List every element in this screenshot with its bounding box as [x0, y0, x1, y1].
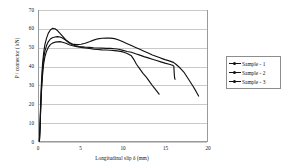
y-tick-label: 30 [20, 82, 34, 89]
legend-label: Sample - 2 [242, 70, 265, 76]
y-tick-label: 10 [20, 120, 34, 127]
chart-figure: P / connector ( kN) Longitudinal slip δ … [0, 0, 284, 168]
legend-item[interactable]: Sample - 1 [229, 59, 278, 68]
x-tick-label: 5 [74, 145, 88, 152]
gridline [39, 142, 207, 143]
legend-line-marker-icon [229, 60, 241, 68]
legend-label: Sample - 1 [242, 61, 265, 67]
legend-item[interactable]: Sample - 2 [229, 68, 278, 77]
chart-legend: Sample - 1Sample - 2Sample - 3 [226, 56, 281, 89]
plot-area [38, 10, 208, 142]
x-tick-label: 15 [159, 145, 173, 152]
x-tick-label: 20 [201, 145, 215, 152]
y-tick-label: 70 [20, 7, 34, 14]
series-lines [39, 10, 207, 141]
legend-line-marker-icon [229, 69, 241, 77]
y-tick-label: 60 [20, 25, 34, 32]
legend-item[interactable]: Sample - 3 [229, 77, 278, 86]
series-line [39, 42, 159, 141]
x-axis-title: Longitudinal slip δ (mm) [36, 155, 208, 161]
legend-line-marker-icon [229, 78, 241, 86]
legend-label: Sample - 3 [242, 79, 265, 85]
y-tick-label: 50 [20, 44, 34, 51]
y-axis-title: P / connector ( kN) [14, 8, 24, 108]
y-tick-label: 40 [20, 63, 34, 70]
series-line [39, 28, 198, 141]
x-tick-label: 0 [31, 145, 45, 152]
x-tick-label: 10 [116, 145, 130, 152]
y-tick-label: 20 [20, 101, 34, 108]
